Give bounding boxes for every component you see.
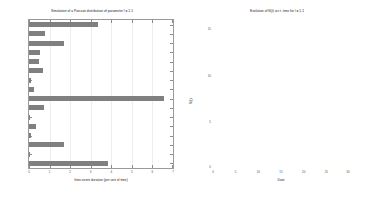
y-axis-tick-right bbox=[170, 25, 173, 26]
y-axis-tick-right bbox=[170, 108, 173, 109]
y-axis-tick-right bbox=[170, 145, 173, 146]
y-axis-tick-right bbox=[170, 163, 173, 164]
x-axis-tick-top bbox=[132, 20, 133, 23]
grid-line-vertical bbox=[152, 20, 153, 168]
left-chart-panel: Simulation of a Poisson distribution of … bbox=[0, 0, 184, 197]
bar-item bbox=[29, 31, 45, 36]
bar-item bbox=[29, 78, 31, 83]
x-axis-tick-label: 5 bbox=[235, 171, 237, 174]
x-axis-tick bbox=[172, 165, 173, 168]
x-axis-tick-label: 4 bbox=[110, 171, 112, 174]
grid-line-vertical bbox=[91, 20, 92, 168]
x-axis-tick-label: 30 bbox=[346, 171, 349, 174]
bar-item bbox=[29, 152, 30, 157]
right-chart-panel: Evolution of N(t) w.r.t. time for l = 1.… bbox=[185, 0, 369, 197]
right-x-axis-title: Date bbox=[212, 178, 350, 183]
y-axis-tick-right bbox=[170, 154, 173, 155]
x-axis-tick-label: 3 bbox=[90, 171, 92, 174]
bar-item bbox=[29, 142, 64, 147]
x-axis-tick-top bbox=[152, 20, 153, 23]
x-axis-tick-label: 20 bbox=[302, 171, 305, 174]
x-axis-tick-label: 15 bbox=[279, 171, 282, 174]
bar-item bbox=[29, 59, 39, 64]
y-axis-tick-right bbox=[170, 52, 173, 53]
bar-item bbox=[29, 68, 43, 73]
x-axis-tick-label: 10 bbox=[257, 171, 260, 174]
x-axis-tick-label: 25 bbox=[325, 171, 328, 174]
x-axis-tick-label: 1 bbox=[49, 171, 51, 174]
x-axis-tick-top bbox=[111, 20, 112, 23]
x-axis-tick-label: 2 bbox=[69, 171, 71, 174]
bar-item bbox=[29, 124, 36, 129]
right-y-axis-title: N(t) bbox=[189, 99, 193, 105]
y-axis-tick-right bbox=[170, 34, 173, 35]
x-axis-tick-label: 5 bbox=[131, 171, 133, 174]
x-axis-tick-label: 7 bbox=[172, 171, 174, 174]
bar-item bbox=[29, 41, 64, 46]
x-axis-tick-label: 0 bbox=[212, 171, 214, 174]
bar-item bbox=[29, 115, 30, 120]
grid-line-vertical bbox=[132, 20, 133, 168]
bar-item bbox=[29, 105, 44, 110]
left-chart-title: Simulation of a Poisson distribution of … bbox=[0, 8, 184, 14]
y-axis-tick-label: 10 bbox=[203, 74, 211, 77]
y-axis-tick-label: 15 bbox=[203, 28, 211, 31]
grid-line-vertical bbox=[111, 20, 112, 168]
left-x-axis-title: Inter-event duration (per unit of time) bbox=[28, 178, 174, 183]
x-axis-tick-top bbox=[172, 20, 173, 23]
bar-item bbox=[29, 50, 40, 55]
y-axis-tick-right bbox=[170, 99, 173, 100]
bar-item bbox=[29, 87, 34, 92]
y-axis-tick-right bbox=[170, 62, 173, 63]
y-axis-tick-right bbox=[170, 126, 173, 127]
y-axis-tick-label: 5 bbox=[203, 120, 211, 123]
x-axis-tick bbox=[152, 165, 153, 168]
x-axis-tick-label: 6 bbox=[152, 171, 154, 174]
left-plot-area bbox=[28, 19, 174, 169]
bar-item bbox=[29, 22, 98, 27]
grid-line-vertical bbox=[70, 20, 71, 168]
x-axis-tick bbox=[111, 165, 112, 168]
y-axis-tick-right bbox=[170, 136, 173, 137]
figure-canvas: Simulation of a Poisson distribution of … bbox=[0, 0, 369, 197]
y-axis-tick-right bbox=[170, 71, 173, 72]
bar-item bbox=[29, 96, 164, 101]
y-axis-tick-right bbox=[170, 117, 173, 118]
right-chart-title: Evolution of N(t) w.r.t. time for l = 1.… bbox=[185, 8, 369, 14]
y-axis-tick-right bbox=[170, 43, 173, 44]
bar-item bbox=[29, 161, 108, 166]
y-axis-tick-right bbox=[170, 89, 173, 90]
x-axis-tick bbox=[132, 165, 133, 168]
y-axis-tick-label: 0 bbox=[203, 166, 211, 169]
bar-item bbox=[29, 133, 31, 138]
y-axis-tick-right bbox=[170, 80, 173, 81]
x-axis-tick-label: 0 bbox=[28, 171, 30, 174]
